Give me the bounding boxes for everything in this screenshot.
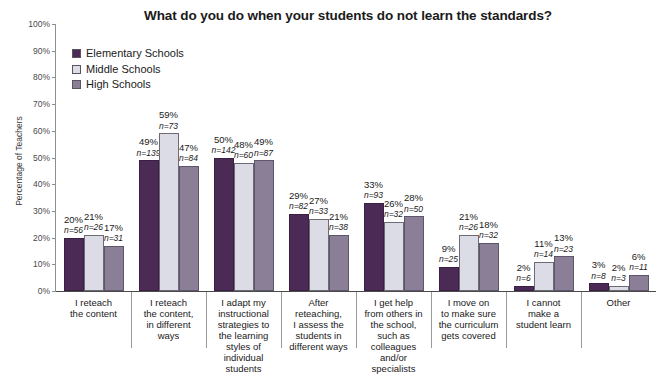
bar-percent-label: 28% [391,193,437,204]
y-tick-label: 70% [0,99,50,109]
x-axis-category-label: I cannotmake astudent learn [506,297,581,330]
x-axis-category: I move onto make surethe curriculumgets … [431,292,506,382]
bar[interactable] [404,216,424,291]
bar[interactable] [179,166,199,291]
bar[interactable] [214,158,234,292]
bar-group-bars: 20%n=5621%n=2617%n=31 [56,24,131,291]
x-axis-category-label: I reteachthe content,in differentways [131,297,206,341]
bar-group-bars: 3%n=82%n=36%n=11 [581,24,656,291]
x-axis-category-label: I reteachthe content [56,297,131,319]
bar-value-label: 18%n=32 [466,220,512,241]
bar[interactable] [289,214,309,291]
y-tick-label: 80% [0,72,50,82]
x-axis-category: Afterreteaching,I assess thestudents ind… [281,292,356,382]
bar-slot: 49%n=139 [139,24,159,291]
bar-slot: 49%n=87 [254,24,274,291]
category-separator [206,292,207,348]
bar-group-bars: 9%n=2521%n=2618%n=32 [431,24,506,291]
category-separator [356,292,357,348]
bar[interactable] [384,222,404,291]
bar-value-label: 21%n=38 [316,212,362,233]
bar-group: 29%n=8227%n=3321%n=38 [281,24,356,291]
bar[interactable] [64,238,84,291]
bar-slot: 26%n=32 [384,24,404,291]
bar-slot: 21%n=38 [329,24,349,291]
bar-n-label: n=38 [316,222,362,233]
x-axis-category-label: Afterreteaching,I assess thestudents ind… [281,297,356,352]
x-axis-category-label: I move onto make surethe curriculumgets … [431,297,506,341]
bar-group-bars: 50%n=14248%n=6049%n=87 [206,24,281,291]
bar[interactable] [104,246,124,291]
bar-group-bars: 33%n=9326%n=3228%n=50 [356,24,431,291]
bar-n-label: n=31 [91,233,137,244]
bar-percent-label: 17% [91,223,137,234]
bar-group-bars: 29%n=8227%n=3321%n=38 [281,24,356,291]
bar-group: 49%n=13959%n=7347%n=84 [131,24,206,291]
bar-n-label: n=50 [391,204,437,215]
bar-value-label: 13%n=23 [541,233,587,254]
x-axis-category: Other [581,292,656,382]
bar-slot: 21%n=26 [84,24,104,291]
bar-slot: 28%n=50 [404,24,424,291]
x-axis-category: I reteachthe content [56,292,131,382]
bar-slot: 6%n=11 [629,24,649,291]
bar[interactable] [514,286,534,291]
bar-slot: 29%n=82 [289,24,309,291]
bar-n-label: n=11 [616,262,660,273]
y-tick-label: 90% [0,46,50,56]
bar-group: 2%n=611%n=1413%n=23 [506,24,581,291]
bar[interactable] [534,262,554,291]
bar[interactable] [554,256,574,291]
bar[interactable] [139,160,159,291]
bar[interactable] [589,283,609,291]
y-tick-label: 100% [0,19,50,29]
bar-percent-label: 49% [241,137,287,148]
y-tick-label: 50% [0,153,50,163]
bar-n-label: n=32 [466,230,512,241]
bar-group: 20%n=5621%n=2617%n=31 [56,24,131,291]
bar-slot: 2%n=3 [609,24,629,291]
bar-percent-label: 18% [466,220,512,231]
category-separator [431,292,432,348]
y-tick-label: 30% [0,206,50,216]
category-separator [506,292,507,348]
bar-slot: 17%n=31 [104,24,124,291]
category-separator [581,292,582,348]
bar-slot: 27%n=33 [309,24,329,291]
bar[interactable] [609,286,629,291]
bar-group-bars: 2%n=611%n=1413%n=23 [506,24,581,291]
y-tick-label: 10% [0,259,50,269]
bar-n-label: n=23 [541,244,587,255]
bar-group: 9%n=2521%n=2618%n=32 [431,24,506,291]
x-axis-category-label: I adapt myinstructionalstrategies tothe … [206,297,281,374]
bar-group: 50%n=14248%n=6049%n=87 [206,24,281,291]
bar-chart: What do you do when your students do not… [0,0,660,382]
bar[interactable] [439,267,459,291]
bar-percent-label: 21% [316,212,362,223]
bar-slot: 21%n=26 [459,24,479,291]
bar[interactable] [329,235,349,291]
bar[interactable] [479,243,499,291]
bar[interactable] [629,275,649,291]
bar[interactable] [254,160,274,291]
x-axis-category-label: I get helpfrom others inthe school,such … [356,297,431,374]
bar[interactable] [459,235,479,291]
x-axis-category: I cannotmake astudent learn [506,292,581,382]
bar-group: 3%n=82%n=36%n=11 [581,24,656,291]
y-tick-label: 60% [0,126,50,136]
x-axis-categories: I reteachthe contentI reteachthe content… [56,292,656,382]
bar-percent-label: 6% [616,252,660,263]
bar-slot: 33%n=93 [364,24,384,291]
bar-value-label: 17%n=31 [91,223,137,244]
bar[interactable] [234,163,254,291]
y-tick-label: 0% [0,286,50,296]
bar-group-bars: 49%n=13959%n=7347%n=84 [131,24,206,291]
plot-area: 20%n=5621%n=2617%n=3149%n=13959%n=7347%n… [56,24,656,291]
x-axis-category: I reteachthe content,in differentways [131,292,206,382]
bar-value-label: 6%n=11 [616,252,660,273]
bar-value-label: 28%n=50 [391,193,437,214]
y-tick-label: 20% [0,233,50,243]
bar-slot: 13%n=23 [554,24,574,291]
bar-n-label: n=87 [241,148,287,159]
chart-title: What do you do when your students do not… [0,8,660,23]
